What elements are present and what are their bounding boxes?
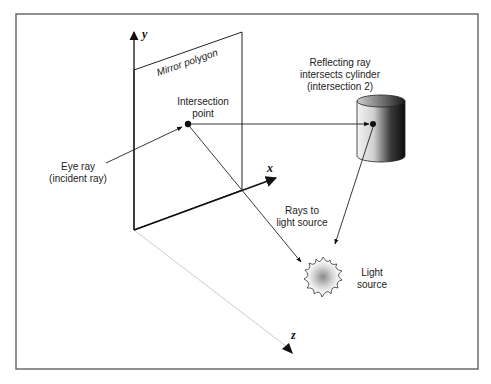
z-axis-label: z xyxy=(290,328,296,342)
rays-label-1: Rays to xyxy=(285,205,319,216)
reflecting-label-1: Reflecting ray xyxy=(309,57,370,68)
light-label-2: source xyxy=(357,279,387,290)
ray-tracing-diagram: z Mirror polygon y x Eye ray (incident r… xyxy=(0,0,491,384)
intersection-point xyxy=(185,121,191,127)
eye-ray-label-2: (incident ray) xyxy=(49,173,107,184)
x-axis-label: x xyxy=(266,161,273,175)
y-axis-label: y xyxy=(140,27,148,41)
intersection-2-point xyxy=(370,121,376,127)
eye-ray-label: Eye ray xyxy=(61,161,95,172)
rays-label-2: light source xyxy=(276,217,328,228)
intersection-label-2: point xyxy=(192,108,214,119)
cylinder xyxy=(357,95,405,162)
light-label-1: Light xyxy=(361,267,383,278)
reflecting-label-3: (intersection 2) xyxy=(307,81,373,92)
reflecting-label-2: intersects cylinder xyxy=(300,69,381,80)
intersection-label-1: Intersection xyxy=(177,96,229,107)
